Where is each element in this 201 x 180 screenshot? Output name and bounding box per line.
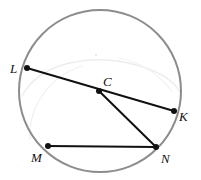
geometry-figure: L C K M N xyxy=(0,0,201,180)
point-dot-L xyxy=(24,65,30,71)
point-dot-K xyxy=(171,108,177,114)
circle-diagram-canvas: L C K M N xyxy=(0,0,201,180)
scan-artifacts xyxy=(22,54,182,140)
point-label-M: M xyxy=(30,150,43,165)
point-label-L: L xyxy=(9,61,17,76)
point-label-K: K xyxy=(178,109,189,124)
point-dot-C xyxy=(96,88,102,94)
scan-speck-2-icon xyxy=(130,63,132,65)
point-dot-M xyxy=(45,143,51,149)
point-label-N: N xyxy=(160,151,171,166)
scan-speck-1-icon xyxy=(95,54,97,56)
segment-M-N xyxy=(48,146,156,147)
point-dot-N xyxy=(153,144,159,150)
point-label-C: C xyxy=(103,74,112,89)
segment-C-N xyxy=(99,91,156,147)
